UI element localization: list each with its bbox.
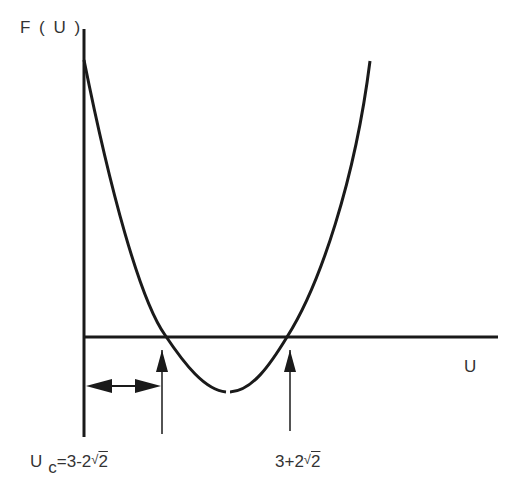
root2-radicand: 2: [311, 452, 320, 471]
uc-prefix: U: [30, 452, 42, 471]
sqrt-icon: √: [304, 452, 311, 467]
root2-expr: 3+2: [275, 452, 304, 471]
uc-expr: =3-2: [57, 452, 92, 471]
uc-subscript: c: [48, 458, 57, 477]
y-axis-label: F ( U ): [20, 18, 82, 38]
diagram-canvas: [0, 0, 525, 496]
x-axis-label: U: [464, 357, 476, 377]
curve-right: [230, 61, 370, 392]
uc-arrowhead-icon: [156, 350, 168, 372]
root2-label: 3+2√2: [275, 452, 320, 472]
range-arrowhead-right-icon: [135, 379, 161, 393]
uc-radicand: 2: [98, 452, 107, 471]
root2-arrowhead-icon: [284, 350, 296, 372]
range-arrowhead-left-icon: [86, 379, 112, 393]
curve-left: [84, 60, 226, 392]
uc-label: Uc=3-2√2: [30, 452, 108, 472]
sqrt-icon: √: [91, 452, 98, 467]
